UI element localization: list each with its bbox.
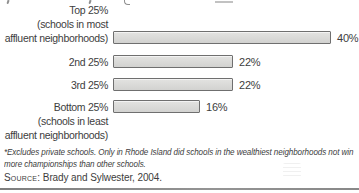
bottom-rule: [0, 188, 359, 190]
clipped-title-fragment: [6, 0, 9, 4]
category-label-line: (schools in most: [37, 18, 108, 30]
bar: [113, 78, 233, 91]
bar-value-label: 22%: [239, 56, 260, 68]
clipped-title-fragment: [215, 1, 233, 3]
category-label-line: (schools in least: [38, 115, 108, 127]
category-label-line: Top 25%: [69, 4, 108, 16]
bar-value-label: 22%: [239, 79, 260, 91]
bar-value-label: 40%: [337, 32, 358, 44]
category-label-line: 2nd 25%: [69, 56, 108, 68]
scan-artifact: [283, 163, 301, 177]
bar: [113, 55, 233, 68]
bar: [113, 100, 200, 113]
clipped-title-fragment: [124, 0, 130, 5]
bar-value-label: 16%: [206, 101, 227, 113]
figure-bar-chart: Top 25%(schools in mostaffluent neighbor…: [0, 0, 359, 193]
source-line: Source: Brady and Sylwester, 2004.: [4, 172, 162, 183]
footnote-line-1: *Excludes private schools. Only in Rhode…: [4, 146, 353, 157]
bar: [113, 31, 331, 44]
footnote-line-2: more championships than other schools.: [4, 158, 146, 169]
source-text: Brady and Sylwester, 2004.: [40, 172, 162, 183]
category-label-line: 3rd 25%: [71, 79, 108, 91]
category-label-line: Bottom 25%: [54, 101, 108, 113]
category-label-line: affluent neighborhoods): [5, 129, 108, 141]
source-label: Source:: [4, 172, 40, 183]
category-label-line: affluent neighborhoods): [5, 32, 108, 44]
